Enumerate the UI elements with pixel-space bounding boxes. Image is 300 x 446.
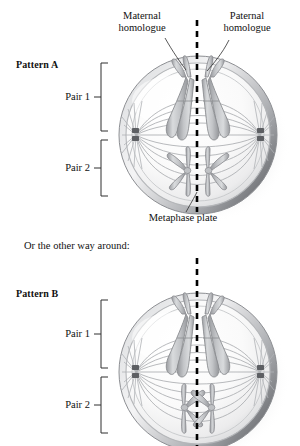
pattern-b-pair2-label: Pair 2: [24, 399, 90, 411]
pattern-a-pair1-label: Pair 1: [24, 91, 90, 103]
figure-root: Maternal homologue Paternal homologue Pa…: [0, 0, 300, 446]
bracket-pair1-b: [94, 300, 108, 368]
bracket-pair2-a: [94, 140, 108, 196]
pattern-b-cell: [119, 293, 290, 446]
pattern-b-title: Pattern B: [16, 288, 58, 300]
pattern-a-pair2-label: Pair 2: [24, 162, 90, 174]
pattern-b-pair1-label: Pair 1: [24, 328, 90, 340]
transition-text: Or the other way around:: [24, 240, 130, 252]
pattern-a-cell: [119, 56, 290, 223]
metaphase-plate-label: Metaphase plate: [124, 212, 242, 224]
bracket-pair2-b: [94, 377, 108, 433]
paternal-homologue-label: Paternal homologue: [208, 10, 286, 33]
bracket-pair1-a: [94, 63, 108, 131]
maternal-homologue-label: Maternal homologue: [104, 10, 180, 33]
pattern-a-title: Pattern A: [16, 59, 58, 71]
